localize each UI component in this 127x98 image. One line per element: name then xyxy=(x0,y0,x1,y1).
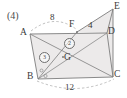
vertex-label-B: B xyxy=(27,72,33,82)
area-mark-2: 2 xyxy=(64,38,75,49)
vertex-label-D: D xyxy=(108,27,115,37)
vertex-label-E: E xyxy=(114,2,120,12)
dimension-label-af: 8 xyxy=(50,13,55,22)
dim-arc-BC xyxy=(37,79,114,89)
figure-canvas xyxy=(0,0,127,98)
area-mark-3: 3 xyxy=(39,52,50,63)
vertex-label-F: F xyxy=(69,20,74,30)
point-dot-F xyxy=(76,31,78,33)
problem-number: (4) xyxy=(7,11,19,21)
vertex-label-G: G xyxy=(64,53,71,63)
vertex-label-A: A xyxy=(20,28,27,38)
dimension-label-fd: 4 xyxy=(88,21,93,30)
vertex-label-C: C xyxy=(114,70,120,80)
dimension-label-bc: 12 xyxy=(65,83,74,92)
geometry-figure: (4) A B C D E F G 8 4 12 2 3 xyxy=(0,0,127,98)
